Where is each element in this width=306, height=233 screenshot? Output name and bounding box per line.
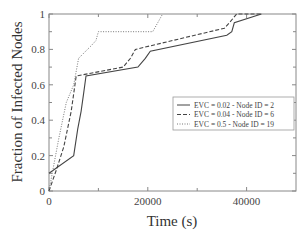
y-tick-label: 0.2 [31, 150, 45, 162]
y-tick-label: 0 [40, 185, 46, 197]
x-tick-label: 20000 [134, 195, 162, 207]
y-tick-label: 0.8 [31, 43, 45, 55]
x-tick-label: 0 [46, 195, 52, 207]
y-tick-label: 0.6 [31, 79, 45, 91]
legend-label-2: EVC = 0.04 - Node ID = 6 [194, 110, 274, 119]
legend-label-3: EVC = 0.5 - Node ID = 19 [194, 120, 274, 129]
y-tick-label: 0.4 [31, 114, 45, 126]
x-axis-title: Time (s) [147, 213, 198, 230]
legend-label-1: EVC = 0.02 - Node ID = 2 [194, 101, 274, 110]
y-tick-label: 1 [40, 8, 46, 20]
series-line-1 [49, 14, 261, 173]
series-line-3 [49, 14, 163, 191]
x-tick-label: 40000 [233, 195, 261, 207]
chart: 0200004000000.20.40.60.81 EVC = 0.02 - N… [0, 0, 306, 233]
legend: EVC = 0.02 - Node ID = 2EVC = 0.04 - Nod… [173, 97, 294, 130]
y-axis-title: Fraction of Infected Nodes [9, 21, 25, 182]
